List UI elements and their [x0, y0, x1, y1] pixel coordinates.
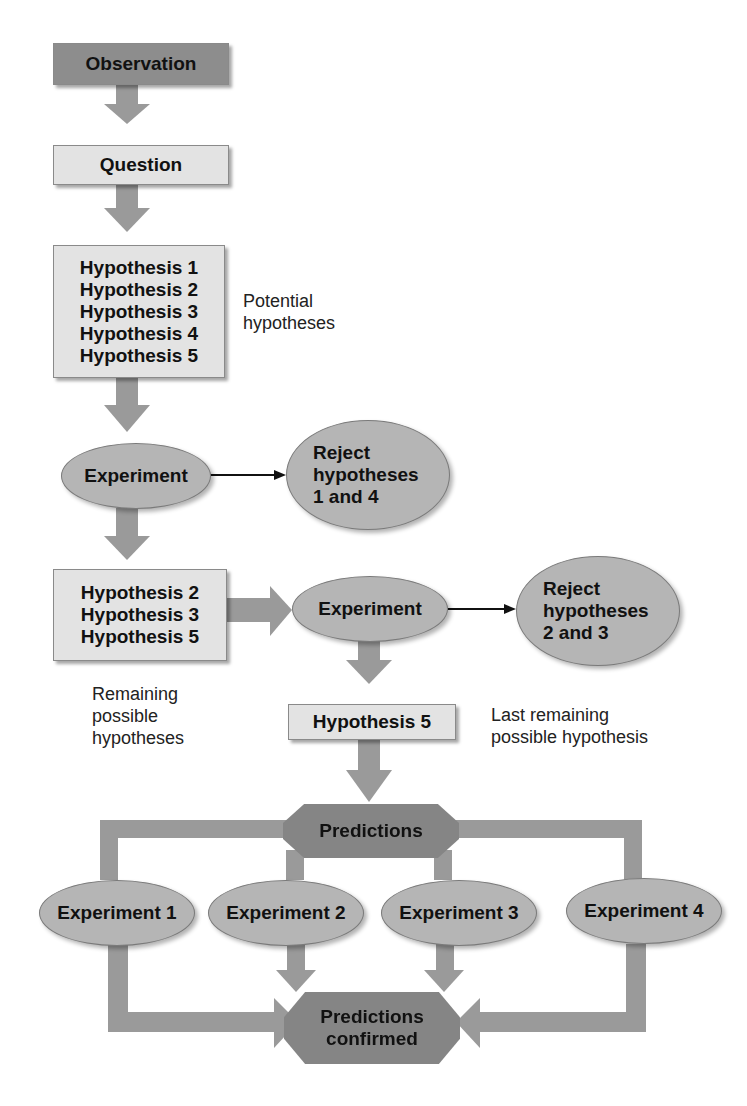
experiment-label: Experiment 4	[584, 900, 703, 922]
reject-line: hypotheses	[313, 464, 419, 486]
predictions-confirmed-box: Predictions confirmed	[284, 992, 460, 1064]
hypothesis-5-box: Hypothesis 5	[288, 704, 456, 740]
hypothesis-item: Hypothesis 2	[81, 582, 199, 604]
experiment-ellipse-first: Experiment	[61, 443, 211, 509]
remaining-hypotheses-box: Hypothesis 2 Hypothesis 3 Hypothesis 5	[53, 569, 227, 661]
experiment-label: Experiment 3	[399, 902, 518, 924]
reject-line: Reject	[543, 578, 649, 600]
reject-line: 1 and 4	[313, 486, 419, 508]
predictions-box: Predictions	[283, 804, 459, 858]
experiment-label: Experiment	[318, 598, 421, 620]
experiment-label: Experiment 2	[226, 902, 345, 924]
reject-line: Reject	[313, 442, 419, 464]
caption-line: Last remaining	[491, 704, 648, 726]
hypothesis-final-label: Hypothesis 5	[313, 711, 431, 733]
caption-line: possible	[92, 705, 184, 727]
caption-line: hypotheses	[243, 312, 335, 334]
caption-line: Remaining	[92, 683, 184, 705]
hypothesis-item: Hypothesis 3	[80, 301, 198, 323]
reject-line: hypotheses	[543, 600, 649, 622]
hypothesis-item: Hypothesis 1	[80, 257, 198, 279]
potential-hypotheses-box: Hypothesis 1 Hypothesis 2 Hypothesis 3 H…	[53, 245, 225, 378]
experiment-label: Experiment 1	[57, 902, 176, 924]
reject-hypotheses-1-4: Reject hypotheses 1 and 4	[286, 420, 450, 530]
caption-line: hypotheses	[92, 727, 184, 749]
caption-line: possible hypothesis	[491, 726, 648, 748]
hypothesis-item: Hypothesis 2	[80, 279, 198, 301]
confirmed-line: Predictions	[320, 1006, 423, 1028]
hypothesis-item: Hypothesis 5	[80, 345, 198, 367]
remaining-hypotheses-caption: Remaining possible hypotheses	[92, 683, 184, 749]
question-label: Question	[100, 154, 182, 176]
potential-hypotheses-caption: Potential hypotheses	[243, 290, 335, 334]
experiment-1-ellipse: Experiment 1	[39, 880, 195, 946]
question-box: Question	[53, 145, 229, 185]
experiment-2-ellipse: Experiment 2	[208, 880, 364, 946]
experiment-3-ellipse: Experiment 3	[381, 880, 537, 946]
hypothesis-item: Hypothesis 3	[81, 604, 199, 626]
experiment-ellipse-second: Experiment	[292, 576, 448, 642]
hypothesis-item: Hypothesis 5	[81, 626, 199, 648]
confirmed-line: confirmed	[326, 1028, 418, 1050]
predictions-label: Predictions	[319, 820, 422, 842]
experiment-label: Experiment	[84, 465, 187, 487]
observation-box: Observation	[53, 43, 229, 85]
reject-hypotheses-2-3: Reject hypotheses 2 and 3	[516, 556, 680, 666]
caption-line: Potential	[243, 290, 335, 312]
experiment-4-ellipse: Experiment 4	[566, 878, 722, 944]
hypothesis-item: Hypothesis 4	[80, 323, 198, 345]
reject-line: 2 and 3	[543, 622, 649, 644]
last-remaining-caption: Last remaining possible hypothesis	[491, 704, 648, 748]
observation-label: Observation	[86, 53, 197, 75]
